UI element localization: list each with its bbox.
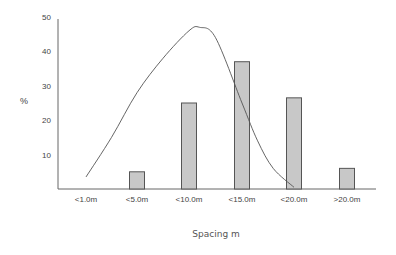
y-tick-20: 20 xyxy=(42,116,51,125)
spacing-distribution-chart: 1020304050 % <1.0m<5.0m<10.0m<15.0m<20.0… xyxy=(0,0,396,255)
bar-4 xyxy=(287,98,302,189)
bar-3 xyxy=(235,62,250,189)
y-axis-label: % xyxy=(20,96,28,106)
y-tick-40: 40 xyxy=(42,47,51,56)
bar-2 xyxy=(182,103,197,189)
bar-1 xyxy=(130,172,145,189)
x-tick-labels: <1.0m<5.0m<10.0m<15.0m<20.0m>20.0m xyxy=(75,195,361,204)
bar-5 xyxy=(340,168,355,189)
x-tick-2: <10.0m xyxy=(176,195,203,204)
y-tick-50: 50 xyxy=(42,13,51,22)
x-tick-1: <5.0m xyxy=(126,195,149,204)
x-tick-5: >20.0m xyxy=(334,195,361,204)
y-tick-labels: 1020304050 xyxy=(42,13,51,160)
y-tick-30: 30 xyxy=(42,82,51,91)
y-tick-10: 10 xyxy=(42,151,51,160)
bars xyxy=(130,62,355,189)
x-tick-3: <15.0m xyxy=(229,195,256,204)
x-axis-label: Spacing m xyxy=(192,229,239,239)
x-tick-0: <1.0m xyxy=(75,195,98,204)
axes xyxy=(58,19,376,189)
x-tick-4: <20.0m xyxy=(281,195,308,204)
